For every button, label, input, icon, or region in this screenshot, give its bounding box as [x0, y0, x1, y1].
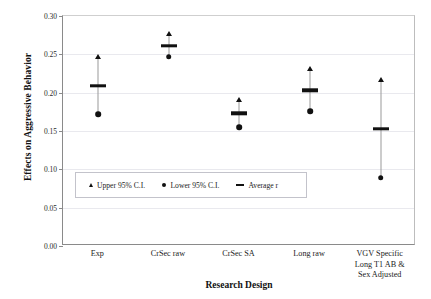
legend-dash-icon [236, 184, 244, 186]
x-tick-label: CrSec raw [133, 249, 204, 260]
x-tick-label-line: VGV Specific [344, 249, 415, 260]
x-tick-label: Exp [62, 249, 133, 260]
y-tick-label: 0.05 [44, 203, 57, 212]
legend-label: Lower 95% C.I. [170, 181, 219, 190]
y-axis-title: Effects on Aggressive Behavior [23, 27, 33, 207]
legend-item: Upper 95% C.I. [89, 181, 145, 190]
upper-ci-triangle-marker [95, 54, 101, 59]
y-tick-label: 0.10 [44, 165, 57, 174]
upper-ci-triangle-marker [236, 97, 242, 102]
average-r-dash-marker [161, 44, 177, 47]
x-axis-title: Research Design [62, 280, 416, 290]
x-tick-label-line: CrSec raw [133, 249, 204, 260]
data-series-group [204, 16, 275, 244]
y-axis-tick [59, 246, 63, 247]
lower-ci-circle-marker [307, 108, 313, 114]
data-series-group [275, 16, 346, 244]
average-r-dash-marker [90, 84, 106, 87]
upper-ci-triangle-marker [166, 31, 172, 36]
average-r-dash-marker [373, 127, 389, 130]
legend-triangle-icon [89, 183, 93, 187]
x-tick-label-line: Exp [62, 249, 133, 260]
average-r-dash-marker [302, 89, 318, 92]
figure-canvas: Effects on Aggressive Behavior 0.000.050… [0, 0, 431, 299]
y-tick-label: 0.30 [44, 12, 57, 21]
legend-label: Upper 95% C.I. [97, 181, 145, 190]
x-tick-label-line: CrSec SA [203, 249, 274, 260]
cropped-title [0, 0, 431, 2]
y-tick-label: 0.00 [44, 242, 57, 251]
data-series-group [63, 16, 134, 244]
legend-item: Lower 95% C.I. [162, 181, 219, 190]
x-tick-label: VGV SpecificLong T1 AB &Sex Adjusted [344, 249, 415, 281]
x-tick-label-line: Long raw [274, 249, 345, 260]
x-tick-label: CrSec SA [203, 249, 274, 260]
x-tick-label-line: Long T1 AB & [344, 260, 415, 271]
legend-item: Average r [236, 181, 278, 190]
y-tick-label: 0.20 [44, 88, 57, 97]
y-tick-label: 0.15 [44, 127, 57, 136]
data-series-group [134, 16, 205, 244]
upper-ci-triangle-marker [378, 77, 384, 82]
average-r-dash-marker [231, 112, 247, 115]
lower-ci-circle-marker [166, 54, 172, 60]
plot-area: 0.000.050.100.150.200.250.30 [62, 15, 415, 245]
upper-ci-triangle-marker [307, 66, 313, 71]
x-tick-label: Long raw [274, 249, 345, 260]
data-series-group [345, 16, 416, 244]
legend-circle-icon [162, 183, 166, 187]
x-tick-label-line: Sex Adjusted [344, 270, 415, 281]
lower-ci-circle-marker [237, 124, 243, 130]
lower-ci-circle-marker [96, 111, 102, 117]
y-tick-label: 0.25 [44, 50, 57, 59]
lower-ci-circle-marker [378, 175, 384, 181]
legend-label: Average r [248, 181, 278, 190]
chart-legend: Upper 95% C.I.Lower 95% C.I.Average r [75, 172, 307, 198]
